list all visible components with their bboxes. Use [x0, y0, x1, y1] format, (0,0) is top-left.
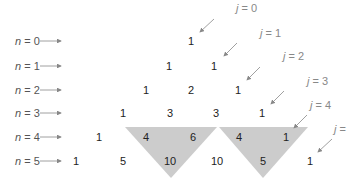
entry-n4-j1: 4 [143, 131, 149, 143]
diag-label-val: = [340, 123, 346, 135]
diag-label-val: = 1 [266, 27, 282, 39]
entry-n4-j3: 4 [236, 131, 242, 143]
entry-n3-j0: 1 [120, 107, 126, 119]
diag-label-var: j [307, 75, 309, 87]
diag-label-j4: j = 4 [310, 99, 331, 111]
diagram-graphics [0, 0, 358, 180]
row-label-var: n [15, 84, 21, 96]
diag-label-j1: j = 1 [260, 27, 281, 39]
row-label-val: = 3 [24, 107, 40, 119]
entry-n1-j0: 1 [166, 60, 172, 72]
row-label-val: = 0 [24, 35, 40, 47]
entry-n1-j1: 1 [211, 60, 217, 72]
entry-n5-j0: 1 [73, 155, 79, 167]
row-arrows [40, 41, 61, 161]
diag-label-j5: j = [334, 123, 346, 135]
diag-label-val: = 3 [313, 75, 329, 87]
pascal-triangle-diagram: n = 0 n = 1 n = 2 n = 3 n = 4 n = 5 j = … [0, 0, 358, 180]
row-label-var: n [15, 60, 21, 72]
row-label-n1: n = 1 [15, 60, 40, 72]
highlight-triangle-right [219, 127, 308, 178]
diag-label-var: j [260, 27, 262, 39]
row-label-var: n [15, 155, 21, 167]
diag-label-val: = 4 [316, 99, 332, 111]
diag-label-j0: j = 0 [236, 2, 257, 14]
diag-label-val: = 0 [242, 2, 258, 14]
entry-n4-j0: 1 [96, 131, 102, 143]
entry-n3-j2: 3 [213, 107, 219, 119]
row-label-val: = 2 [24, 84, 40, 96]
row-label-n4: n = 4 [15, 131, 40, 143]
row-label-n2: n = 2 [15, 84, 40, 96]
row-label-n0: n = 0 [15, 35, 40, 47]
diag-label-var: j [310, 99, 312, 111]
diag-label-var: j [236, 2, 238, 14]
entry-n3-j3: 1 [259, 107, 265, 119]
row-label-n5: n = 5 [15, 155, 40, 167]
entry-n2-j2: 1 [235, 84, 241, 96]
entry-n2-j1: 2 [188, 84, 194, 96]
entry-n0-j0: 1 [188, 35, 194, 47]
diag-label-j3: j = 3 [307, 75, 328, 87]
row-label-var: n [15, 131, 21, 143]
entry-n5-j1: 5 [120, 155, 126, 167]
row-label-val: = 4 [24, 131, 40, 143]
row-label-val: = 1 [24, 60, 40, 72]
entry-n5-j5: 1 [307, 155, 313, 167]
entry-n5-j4: 5 [260, 155, 266, 167]
entry-n3-j1: 3 [167, 107, 173, 119]
entry-n2-j0: 1 [143, 84, 149, 96]
row-label-var: n [15, 107, 21, 119]
diag-label-var: j [334, 123, 336, 135]
diag-label-j2: j = 2 [283, 50, 304, 62]
row-label-n3: n = 3 [15, 107, 40, 119]
row-label-val: = 5 [24, 155, 40, 167]
entry-n4-j2: 6 [190, 131, 196, 143]
entry-n5-j3: 10 [211, 155, 223, 167]
entry-n5-j2: 10 [164, 155, 176, 167]
diag-label-val: = 2 [289, 50, 305, 62]
highlight-triangle-left [125, 127, 217, 178]
diag-label-var: j [283, 50, 285, 62]
row-label-var: n [15, 35, 21, 47]
entry-n4-j4: 1 [283, 131, 289, 143]
